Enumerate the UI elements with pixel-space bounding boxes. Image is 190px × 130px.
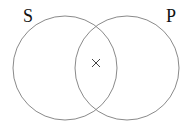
set-s-circle [13,16,117,120]
set-p-label: P [166,6,176,26]
set-s-label: S [23,6,33,26]
intersection-x-marker [92,59,100,67]
set-p-circle [75,16,179,120]
venn-diagram: S P [0,0,190,130]
